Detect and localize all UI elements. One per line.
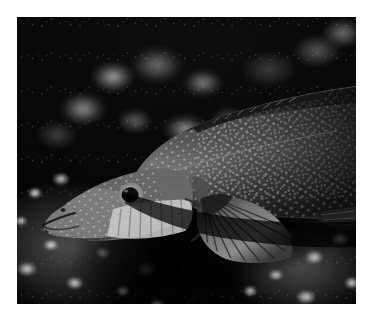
eye-highlight — [124, 190, 128, 193]
photograph — [17, 17, 356, 304]
fish-illustration — [17, 17, 356, 304]
nostril — [61, 208, 66, 211]
fish-head — [35, 167, 208, 249]
fish-subject — [17, 17, 356, 304]
page-root: Spotted grouper resting on coral reef co… — [0, 0, 368, 314]
